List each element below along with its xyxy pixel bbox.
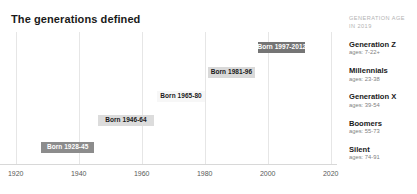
bar-silent: Born 1928-45: [41, 142, 95, 153]
x-tick-1920: 1920: [8, 170, 24, 177]
legend-entry-name: Millennials: [349, 66, 417, 75]
bar-label: Born 1997-2012: [257, 44, 306, 51]
page-title: The generations defined: [11, 13, 140, 25]
legend-entry-name: Silent: [349, 145, 417, 154]
legend-entry-ages: ages: 7-22+: [349, 49, 417, 57]
bar-boomers: Born 1946-64: [98, 115, 155, 126]
bar-label: Born 1981-96: [211, 69, 252, 76]
generation-age-legend: GENERATION AGE IN 2019 Generation Zages:…: [349, 14, 417, 162]
bar-millennials: Born 1981-96: [208, 67, 255, 78]
legend-header-line-1: GENERATION AGE: [349, 14, 417, 22]
legend-entry-name: Generation X: [349, 92, 417, 101]
generations-chart-figure: The generations defined Born 1997-2012Bo…: [0, 0, 417, 194]
x-tick-1980: 1980: [197, 170, 213, 177]
gridline-2020: [331, 32, 332, 164]
gridline-1920: [16, 32, 17, 164]
bar-label: Born 1946-64: [105, 117, 146, 124]
legend-entry-ages: ages: 55-73: [349, 128, 417, 136]
legend-entry-generation-x: Generation Xages: 39-54: [349, 92, 417, 109]
bar-generation-z: Born 1997-2012: [258, 42, 305, 53]
legend-entry-generation-z: Generation Zages: 7-22+: [349, 40, 417, 57]
bar-generation-x: Born 1965-80: [157, 91, 204, 102]
x-tick-1960: 1960: [134, 170, 150, 177]
legend-entry-millennials: Millennialsages: 23-38: [349, 66, 417, 83]
bar-label: Born 1965-80: [160, 93, 201, 100]
legend-entry-name: Boomers: [349, 119, 417, 128]
legend-entry-name: Generation Z: [349, 40, 417, 49]
legend-entry-ages: ages: 74-91: [349, 154, 417, 162]
legend-entry-silent: Silentages: 74-91: [349, 145, 417, 162]
legend-entry-ages: ages: 39-54: [349, 102, 417, 110]
legend-entry-boomers: Boomersages: 55-73: [349, 119, 417, 136]
legend-header: GENERATION AGE IN 2019: [349, 14, 417, 31]
x-axis-baseline: [0, 164, 337, 165]
gridline-1980: [205, 32, 206, 164]
legend-header-line-2: IN 2019: [349, 22, 417, 30]
bar-label: Born 1928-45: [47, 144, 88, 151]
legend-entry-ages: ages: 23-38: [349, 76, 417, 84]
x-tick-2000: 2000: [260, 170, 276, 177]
gridline-1960: [142, 32, 143, 164]
x-tick-1940: 1940: [71, 170, 87, 177]
chart-plot-area: Born 1997-2012Born 1981-96Born 1965-80Bo…: [0, 32, 337, 164]
x-tick-2020: 2020: [323, 170, 339, 177]
